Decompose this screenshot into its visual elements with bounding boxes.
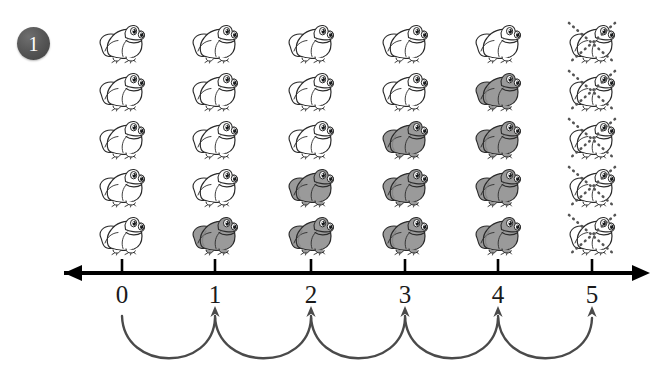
- worksheet-canvas: 1 012345: [0, 0, 661, 384]
- jump-arc-1-to-2: [215, 316, 311, 358]
- jump-arc-4-to-5: [498, 316, 592, 358]
- jump-arrows-group: [0, 0, 661, 384]
- jump-arc-0-to-1: [122, 316, 215, 358]
- jump-arc-2-to-3: [311, 316, 405, 358]
- jump-arrowhead-5: [587, 306, 596, 317]
- jump-arc-3-to-4: [405, 316, 498, 358]
